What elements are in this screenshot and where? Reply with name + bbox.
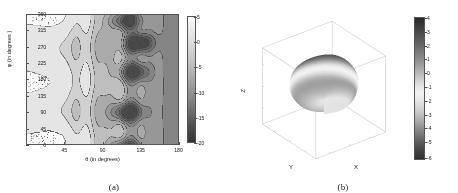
surface-plot-canvas [244, 12, 404, 162]
ytick-label: 180 [22, 76, 46, 82]
colorbar-tick-label: -1 [427, 84, 431, 90]
xtick-mark [141, 142, 142, 145]
colorbar-tick-label: 1 [427, 56, 430, 62]
colorbar-tick-label: 4 [427, 15, 430, 21]
ytick-label: 90 [22, 109, 46, 115]
colorbar-tick-label: 5 [197, 14, 200, 20]
z-axis-label-3d: Z [240, 89, 246, 93]
ytick-label: 270 [22, 44, 46, 50]
contour-plot-canvas [27, 15, 178, 144]
panel-surface-plot: X Y Z 4 3 2 1 0 -1 -2 -3 -4 -5 -6 (b) [228, 0, 458, 193]
colorbar-tick-label: -15 [197, 115, 204, 121]
colorbar-surface [414, 17, 425, 160]
colorbar-tick-label: -3 [427, 112, 431, 118]
colorbar-tick-label: 0 [427, 70, 430, 76]
colorbar-tick-label: 2 [427, 43, 430, 49]
panel-contour-plot: 0 45 90 135 180 225 270 315 360 45 90 13… [0, 0, 228, 193]
colorbar-tick-label: -2 [427, 98, 431, 104]
xtick-mark [179, 142, 180, 145]
contour-plot-axes [26, 14, 179, 145]
ytick-label: 225 [22, 60, 46, 66]
ytick-label: 0 [22, 142, 46, 148]
ytick-label: 360 [22, 11, 46, 17]
y-axis-label: φ (in degrees ) [6, 14, 12, 84]
ytick-label: 135 [22, 93, 46, 99]
panel-caption-b: (b) [228, 182, 458, 192]
y-axis-label-3d: Y [289, 164, 293, 170]
ytick-label: 45 [22, 126, 46, 132]
panel-caption-a: (a) [0, 182, 228, 192]
colorbar-tick-label: -6 [427, 155, 431, 161]
x-axis-label: θ (in degrees) [26, 156, 179, 162]
x-axis-label-3d: X [354, 164, 358, 170]
surface-plot-axes: X Y Z [244, 12, 404, 162]
colorbar-tick-label: 3 [427, 29, 430, 35]
xtick-label: 45 [53, 147, 75, 153]
colorbar-tick-label: 0 [197, 39, 200, 45]
xtick-label: 135 [130, 147, 152, 153]
ytick-label: 315 [22, 27, 46, 33]
colorbar-tick-label: -5 [197, 64, 201, 70]
xtick-label: 180 [168, 147, 190, 153]
figure-root: 0 45 90 135 180 225 270 315 360 45 90 13… [0, 0, 458, 193]
xtick-mark [64, 142, 65, 145]
colorbar-tick-label: -5 [427, 139, 431, 145]
xtick-mark [103, 142, 104, 145]
colorbar-contour [187, 16, 196, 143]
colorbar-tick-label: -10 [197, 90, 204, 96]
colorbar-tick-label: -4 [427, 125, 431, 131]
xtick-label: 90 [92, 147, 114, 153]
colorbar-tick-label: -20 [197, 140, 204, 146]
